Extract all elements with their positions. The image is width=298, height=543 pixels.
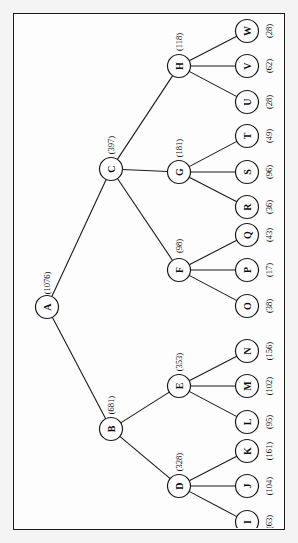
node-value-r: (36) (264, 200, 274, 214)
tree-edge-c-g (122, 170, 167, 172)
tree-node-n[interactable]: N(156) (236, 340, 275, 363)
node-label-q: Q (242, 231, 253, 239)
tree-node-j[interactable]: J(104) (236, 475, 275, 498)
node-value-f: (98) (174, 239, 184, 253)
node-value-h: (118) (174, 33, 184, 51)
node-value-b: (681) (106, 396, 116, 415)
tree-edge-g-t (189, 141, 237, 166)
node-label-o: O (242, 302, 253, 310)
tree-edge-b-e (121, 392, 170, 423)
tree-edge-c-h (117, 76, 172, 160)
tree-edge-d-k (189, 456, 237, 480)
tree-edge-e-l (189, 391, 237, 416)
node-label-v: V (242, 62, 253, 70)
tree-node-k[interactable]: K(161) (236, 440, 275, 463)
tree-edge-f-o (189, 275, 237, 300)
node-value-s: (96) (264, 165, 274, 179)
node-value-w: (28) (264, 24, 274, 38)
tree-node-l[interactable]: L(95) (236, 411, 275, 434)
tree-node-c[interactable]: C(397) (100, 136, 123, 181)
node-value-a: (1076) (42, 272, 52, 295)
tree-node-d[interactable]: D(328) (168, 453, 191, 498)
diagram-frame: A(1076)B(681)C(397)D(328)E(353)F(98)G(18… (13, 13, 285, 530)
node-value-l: (95) (264, 415, 274, 429)
tree-edge-d-i (189, 491, 237, 516)
node-label-i: I (242, 520, 253, 524)
edge-layer (52, 36, 237, 516)
node-value-p: (17) (264, 263, 274, 277)
node-label-s: S (242, 169, 253, 175)
node-value-t: (49) (264, 129, 274, 143)
node-value-k: (161) (264, 442, 274, 461)
tree-edge-e-n (189, 356, 237, 380)
node-value-v: (62) (264, 59, 274, 73)
node-layer: A(1076)B(681)C(397)D(328)E(353)F(98)G(18… (36, 20, 275, 529)
node-label-u: U (242, 98, 253, 105)
node-label-t: T (242, 132, 253, 139)
tree-node-g[interactable]: G(181) (168, 139, 191, 184)
tree-node-t[interactable]: T(49) (236, 125, 275, 148)
node-label-n: N (242, 347, 253, 355)
tree-edge-f-q (189, 240, 237, 264)
node-value-i: (63) (264, 515, 274, 528)
tree-node-u[interactable]: U(28) (236, 91, 275, 114)
node-label-e: E (174, 382, 185, 389)
node-value-u: (28) (264, 95, 274, 109)
node-label-d: D (174, 482, 185, 489)
node-label-p: P (242, 267, 253, 273)
node-label-b: B (106, 425, 117, 432)
node-label-a: A (42, 303, 53, 311)
tree-node-e[interactable]: E(353) (168, 353, 191, 398)
tree-node-o[interactable]: O(38) (236, 295, 275, 318)
node-value-q: (43) (264, 228, 274, 242)
node-label-r: R (242, 203, 253, 211)
tree-node-i[interactable]: I(63) (236, 511, 275, 529)
tree-edge-h-w (189, 36, 237, 60)
node-value-j: (104) (264, 477, 274, 496)
node-label-j: J (242, 484, 253, 489)
node-label-h: H (174, 62, 185, 70)
tree-node-s[interactable]: S(96) (236, 161, 275, 184)
tree-node-m[interactable]: M(102) (236, 375, 275, 398)
node-value-o: (38) (264, 299, 274, 313)
tree-edge-a-c (52, 179, 106, 296)
node-label-k: K (242, 447, 253, 455)
tree-edge-c-f (117, 179, 172, 261)
node-label-g: G (174, 168, 185, 176)
node-value-n: (156) (264, 342, 274, 361)
tree-node-f[interactable]: F(98) (168, 239, 191, 282)
node-value-g: (181) (174, 139, 184, 158)
tree-node-p[interactable]: P(17) (236, 259, 275, 282)
node-value-c: (397) (106, 136, 116, 155)
node-circle-i (236, 511, 259, 529)
node-label-f: F (174, 267, 185, 273)
tree-node-h[interactable]: H(118) (168, 33, 191, 78)
tree-node-b[interactable]: B(681) (100, 396, 123, 441)
tree-edge-a-b (52, 317, 105, 419)
node-value-e: (353) (174, 353, 184, 372)
node-label-m: M (242, 381, 253, 391)
node-value-d: (328) (174, 453, 184, 472)
node-label-l: L (242, 418, 253, 425)
tree-diagram-canvas: A(1076)B(681)C(397)D(328)E(353)F(98)G(18… (14, 14, 283, 528)
tree-edge-g-r (189, 177, 237, 201)
tree-node-a[interactable]: A(1076) (36, 272, 59, 319)
node-label-w: W (242, 26, 253, 36)
tree-node-w[interactable]: W(28) (236, 20, 275, 43)
node-value-m: (102) (264, 377, 274, 396)
tree-node-v[interactable]: V(62) (236, 55, 275, 78)
tree-edge-h-u (189, 71, 237, 96)
tree-node-q[interactable]: Q(43) (236, 224, 275, 247)
node-label-c: C (106, 165, 117, 172)
tree-node-r[interactable]: R(36) (236, 196, 275, 219)
tree-edge-b-d (120, 436, 170, 478)
